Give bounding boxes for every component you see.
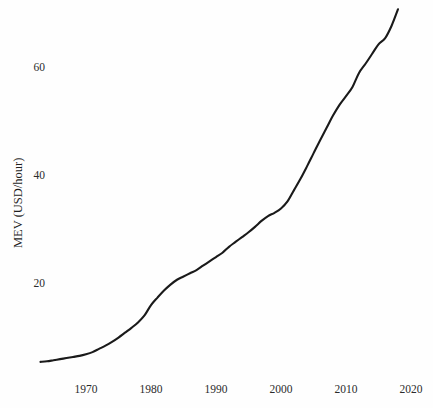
x-tick-label-2020: 2020 xyxy=(400,383,423,395)
line-chart: MEV (USD/hour) 60 40 20 1970 1980 1990 2… xyxy=(0,0,433,408)
chart-page: MEV (USD/hour) 60 40 20 1970 1980 1990 2… xyxy=(0,0,433,408)
y-tick-label-40: 40 xyxy=(34,169,46,181)
x-tick-label-1980: 1980 xyxy=(140,383,163,395)
y-tick-label-20: 20 xyxy=(34,277,46,289)
x-tick-label-2000: 2000 xyxy=(270,383,293,395)
y-axis-title: MEV (USD/hour) xyxy=(11,158,25,248)
x-tick-label-1990: 1990 xyxy=(205,383,228,395)
y-tick-label-60: 60 xyxy=(34,61,46,73)
x-tick-label-2010: 2010 xyxy=(335,383,358,395)
x-tick-label-1970: 1970 xyxy=(75,383,98,395)
